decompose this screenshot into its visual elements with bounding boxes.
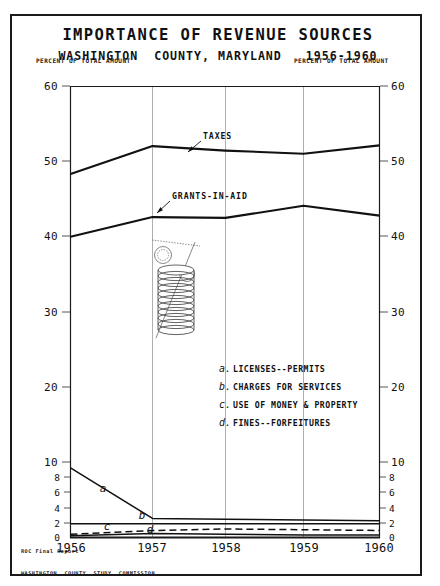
series-label-taxes: TAXES	[203, 131, 232, 141]
y-axis-left-labels: 60 50 40 30 20 10 8 6 4 2 0	[44, 80, 60, 543]
ylabel-right-6: 6	[389, 487, 395, 498]
legend-label-b: CHARGES FOR SERVICES	[233, 382, 342, 392]
ylabel-left-40: 40	[44, 230, 58, 243]
chart-page: IMPORTANCE OF REVENUE SOURCES WASHINGTON…	[0, 0, 440, 586]
footer: ROC Final Report WASHINGTON COUNTY STUDY…	[21, 533, 155, 586]
legend-key-b: b.	[219, 381, 231, 392]
plot-area-background	[70, 86, 380, 538]
ylabel-right-60: 60	[391, 80, 405, 93]
ylabel-right-8: 8	[389, 472, 395, 483]
ylabel-left-2: 2	[54, 518, 60, 529]
ylabel-right-2: 2	[389, 518, 395, 529]
series-label-grants-in-aid: GRANTS-IN-AID	[172, 191, 248, 201]
ylabel-left-4: 4	[54, 503, 60, 514]
legend-key-c: c.	[219, 399, 231, 410]
footer-line-2: WASHINGTON COUNTY STUDY COMMISSION	[21, 570, 155, 577]
ylabel-right-40: 40	[391, 230, 405, 243]
y-axis-right-labels: 60 50 40 30 20 10 8 6 4 2 0	[389, 80, 405, 543]
xlabel-1960: 1960	[364, 541, 394, 555]
legend-label-c: USE OF MONEY & PROPERTY	[233, 400, 358, 410]
legend-label-a: LICENSES--PERMITS	[233, 364, 325, 374]
ylabel-left-50: 50	[44, 155, 58, 168]
y-axis-left-ticks	[62, 86, 70, 523]
footer-line-1: ROC Final Report	[21, 548, 155, 555]
legend-key-a: a.	[219, 363, 231, 374]
y-axis-right-ticks	[380, 86, 388, 523]
series-label-c: c	[104, 520, 111, 533]
xlabel-1958: 1958	[211, 541, 241, 555]
ylabel-left-60: 60	[44, 80, 58, 93]
ylabel-left-6: 6	[54, 487, 60, 498]
series-label-a: a	[100, 482, 107, 495]
ylabel-left-30: 30	[44, 306, 58, 319]
ylabel-right-10: 10	[391, 456, 405, 469]
ylabel-right-20: 20	[391, 381, 405, 394]
revenue-sources-line-chart: 60 50 40 30 20 10 8 6 4 2 0 60 50 40 30 …	[0, 0, 440, 586]
ylabel-left-10: 10	[44, 456, 58, 469]
ylabel-right-4: 4	[389, 503, 395, 514]
ylabel-right-50: 50	[391, 155, 405, 168]
legend-key-d: d.	[219, 417, 231, 428]
ylabel-right-30: 30	[391, 306, 405, 319]
legend-label-d: FINES--FORFEITURES	[233, 418, 331, 428]
ylabel-left-8: 8	[54, 472, 60, 483]
xlabel-1959: 1959	[289, 541, 319, 555]
ylabel-left-20: 20	[44, 381, 58, 394]
series-label-b: b	[139, 509, 146, 522]
